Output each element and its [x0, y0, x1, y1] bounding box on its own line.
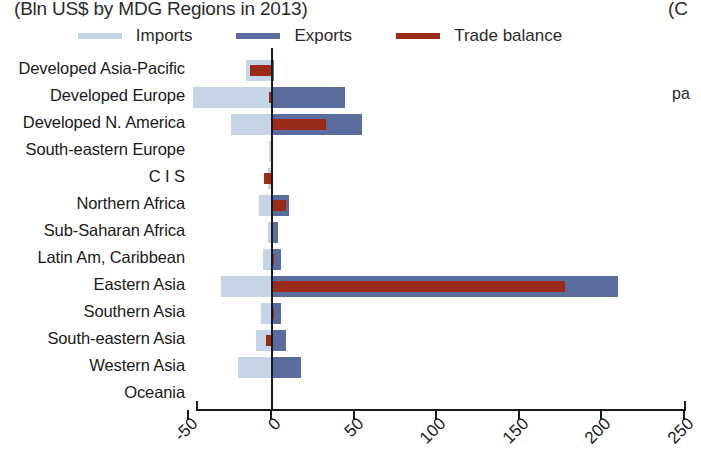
chart-row [196, 85, 685, 112]
category-label: Developed N. America [23, 113, 185, 132]
x-axis-tick-label: -50 [167, 414, 202, 449]
chart-row [196, 274, 685, 301]
x-axis-tick-label: 200 [580, 414, 615, 449]
category-label: Southern Asia [84, 302, 185, 321]
legend-label-imports: Imports [136, 26, 193, 46]
bar-trade-balance [250, 65, 271, 76]
x-axis-tick-label: 150 [498, 414, 533, 449]
bar-imports [238, 357, 271, 378]
x-axis-tick-label: 100 [415, 414, 450, 449]
legend-item-trade-balance[interactable]: Trade balance [396, 26, 562, 46]
x-axis-tick-label: 250 [663, 414, 698, 449]
bar-exports [271, 357, 301, 378]
chart-row [196, 193, 685, 220]
chart-row [196, 382, 685, 409]
chart-row [196, 220, 685, 247]
chart-row [196, 139, 685, 166]
x-axis-right-cap [684, 401, 686, 410]
chart-legend: Imports Exports Trade balance [0, 26, 640, 46]
chart-row [196, 301, 685, 328]
zero-reference-line [271, 48, 273, 410]
legend-swatch-imports [78, 33, 122, 39]
category-label: South-eastern Asia [47, 329, 185, 348]
legend-item-imports[interactable]: Imports [78, 26, 193, 46]
category-label: Sub-Saharan Africa [44, 221, 185, 240]
adjacent-chart-title-clipped: (C [668, 0, 688, 20]
category-label: Eastern Asia [94, 275, 185, 294]
legend-label-trade-balance: Trade balance [454, 26, 562, 46]
bar-exports [271, 330, 286, 351]
legend-label-exports: Exports [294, 26, 352, 46]
chart-row [196, 58, 685, 85]
bar-imports [221, 276, 271, 297]
bar-trade-balance [271, 281, 565, 292]
legend-item-exports[interactable]: Exports [236, 26, 352, 46]
plot-area [196, 58, 685, 410]
chart-container: (Bln US$ by MDG Regions in 2013) (C pa I… [0, 0, 701, 454]
category-label: South-eastern Europe [26, 140, 185, 159]
bar-trade-balance [271, 200, 286, 211]
category-label: Developed Asia-Pacific [18, 59, 185, 78]
chart-row [196, 328, 685, 355]
category-label: C I S [149, 167, 185, 186]
category-label: Northern Africa [76, 194, 185, 213]
bar-imports [231, 114, 271, 135]
legend-swatch-exports [236, 33, 280, 39]
bar-imports [193, 87, 271, 108]
bar-imports [263, 249, 271, 270]
legend-swatch-trade-balance [396, 33, 440, 39]
category-label: Latin Am, Caribbean [37, 248, 185, 267]
category-label: Oceania [124, 383, 185, 402]
chart-row [196, 355, 685, 382]
chart-subtitle: (Bln US$ by MDG Regions in 2013) [14, 0, 308, 20]
bar-exports [271, 87, 345, 108]
category-label: Western Asia [89, 356, 185, 375]
chart-row [196, 247, 685, 274]
x-axis-tick-label: 0 [250, 414, 285, 449]
bar-trade-balance [264, 173, 271, 184]
x-axis-left-cap [196, 401, 198, 410]
bar-imports [261, 303, 271, 324]
category-label: Developed Europe [50, 86, 185, 105]
x-axis-tick-label: 50 [332, 414, 367, 449]
chart-row [196, 166, 685, 193]
bar-imports [259, 195, 271, 216]
chart-row [196, 112, 685, 139]
bar-trade-balance [271, 119, 326, 130]
